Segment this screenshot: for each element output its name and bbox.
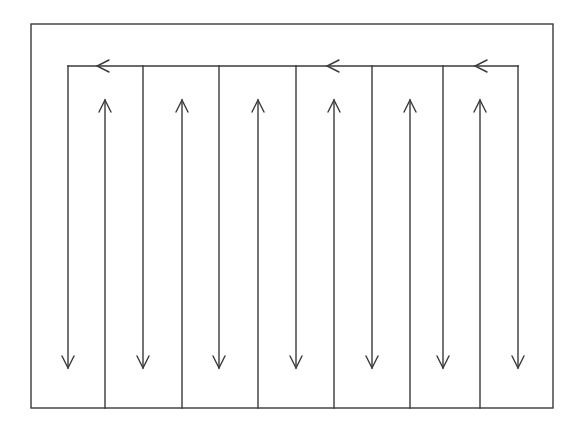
lanes [68,66,518,408]
outer-boundary [31,24,553,408]
arrows [62,60,524,368]
coverage-path-diagram [0,0,578,426]
